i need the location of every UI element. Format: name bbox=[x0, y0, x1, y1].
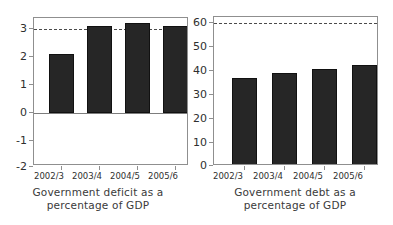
bar-2005-6 bbox=[352, 65, 377, 164]
caption-line-1: Government debt as a bbox=[197, 186, 393, 199]
y-tick-label: 0 bbox=[20, 107, 27, 118]
bar-2004-5 bbox=[125, 23, 150, 113]
chart-panel-government-debt: 60 50 40 30 20 10 0 bbox=[197, 0, 393, 225]
bar-2003-4 bbox=[87, 26, 112, 113]
y-tick-label: 20 bbox=[193, 113, 207, 124]
y-tick-label: 3 bbox=[20, 23, 27, 34]
y-tick-label: 50 bbox=[193, 41, 207, 52]
bar-2002-3 bbox=[232, 78, 257, 164]
y-tick-label: -1 bbox=[16, 135, 27, 146]
y-tick-label: 40 bbox=[193, 65, 207, 76]
zero-baseline bbox=[34, 113, 187, 114]
x-tick-mark bbox=[99, 166, 100, 170]
dual-bar-chart-figure: 3 2 1 0 -1 -2 bbox=[0, 0, 393, 225]
x-tick-mark bbox=[364, 166, 365, 170]
bar-2005-6 bbox=[163, 26, 187, 113]
x-tick-mark bbox=[137, 166, 138, 170]
chart-caption-deficit: Government deficit as a percentage of GD… bbox=[0, 186, 196, 212]
y-tick-label: 2 bbox=[20, 51, 27, 62]
y-tick-label: 30 bbox=[193, 89, 207, 100]
y-tick-label: 1 bbox=[20, 79, 27, 90]
reference-line-60-percent bbox=[214, 23, 377, 24]
caption-line-2: percentage of GDP bbox=[0, 199, 196, 212]
plot-area-deficit bbox=[33, 17, 188, 165]
x-tick-mark bbox=[284, 166, 285, 170]
x-tick-label: 2005/6 bbox=[140, 171, 186, 181]
plot-area-debt bbox=[213, 16, 378, 165]
caption-line-1: Government deficit as a bbox=[0, 186, 196, 199]
x-tick-mark bbox=[244, 166, 245, 170]
y-tick-label: 10 bbox=[193, 137, 207, 148]
y-tick-mark bbox=[29, 166, 33, 167]
x-tick-mark bbox=[175, 166, 176, 170]
caption-line-2: percentage of GDP bbox=[197, 199, 393, 212]
y-tick-mark bbox=[209, 165, 213, 166]
x-tick-mark bbox=[61, 166, 62, 170]
y-tick-label: 0 bbox=[200, 160, 207, 171]
chart-caption-debt: Government debt as a percentage of GDP bbox=[197, 186, 393, 212]
y-tick-label: 60 bbox=[193, 17, 207, 28]
bar-2003-4 bbox=[272, 73, 297, 164]
x-tick-label: 2005/6 bbox=[325, 171, 371, 181]
chart-panel-government-deficit: 3 2 1 0 -1 -2 bbox=[0, 0, 196, 225]
x-tick-mark bbox=[324, 166, 325, 170]
bar-2004-5 bbox=[312, 69, 337, 164]
bar-2002-3 bbox=[49, 54, 74, 113]
